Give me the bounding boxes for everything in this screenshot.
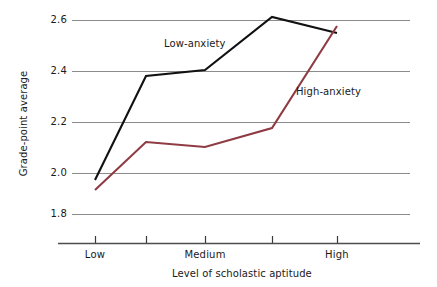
y-tick-label-2-0: 2.0 [41, 168, 67, 178]
chart-container: 2.6 2.4 2.2 2.0 1.8 Low Medium High Low-… [0, 0, 437, 287]
gridlines [72, 21, 410, 215]
x-axis-ticks [96, 236, 338, 243]
x-tick-label-medium: Medium [170, 249, 240, 260]
x-tick-label-low: Low [60, 249, 130, 260]
x-tick-label-high: High [302, 249, 372, 260]
y-axis-title: Grade-point average [18, 59, 29, 189]
x-axis-title: Level of scholastic aptitude [72, 268, 412, 279]
y-tick-label-2-4: 2.4 [41, 66, 67, 76]
series-label-high-anxiety: High-anxiety [296, 86, 361, 97]
y-tick-label-2-2: 2.2 [41, 117, 67, 127]
y-tick-label-2-6: 2.6 [41, 15, 67, 25]
series-label-low-anxiety: Low-anxiety [164, 38, 226, 49]
y-tick-label-1-8: 1.8 [41, 209, 67, 219]
